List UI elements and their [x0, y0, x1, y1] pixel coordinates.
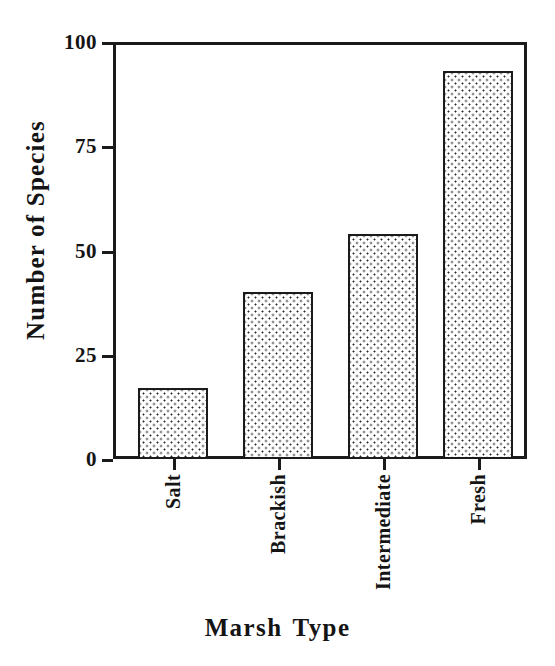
y-tick-mark-50 — [102, 251, 113, 254]
bar-chart-figure: 100 75 50 25 0 Number of Species Salt Br… — [0, 0, 555, 666]
x-axis-title: MarshType — [0, 614, 555, 642]
y-tick-label-75: 75 — [75, 136, 97, 157]
bar-intermediate — [348, 234, 418, 459]
y-axis-title: Number of Species — [14, 0, 58, 459]
y-tick-label-25: 25 — [75, 345, 97, 366]
x-axis-title-word-2: Type — [292, 614, 350, 641]
y-tick-mark-100 — [102, 42, 113, 45]
y-tick-mark-75 — [102, 146, 113, 149]
x-tick-label-brackish: Brackish — [268, 474, 292, 494]
bar-fresh — [443, 71, 513, 459]
x-tick-label-intermediate-text: Intermediate — [373, 474, 393, 590]
x-tick-mark-brackish — [278, 459, 281, 470]
x-tick-label-salt-text: Salt — [163, 474, 183, 509]
x-axis-title-word-1: Marsh — [205, 614, 283, 641]
y-tick-label-50: 50 — [75, 241, 97, 262]
x-tick-label-salt: Salt — [163, 474, 187, 494]
y-tick-mark-0 — [102, 459, 113, 462]
x-tick-mark-fresh — [478, 459, 481, 470]
x-tick-label-fresh-text: Fresh — [468, 474, 488, 525]
y-tick-label-0: 0 — [86, 449, 97, 470]
y-tick-label-100: 100 — [64, 32, 97, 53]
x-tick-label-intermediate: Intermediate — [373, 474, 397, 494]
x-tick-label-fresh: Fresh — [468, 474, 492, 494]
x-tick-label-brackish-text: Brackish — [268, 474, 288, 554]
bars-layer — [113, 42, 527, 459]
x-tick-mark-intermediate — [383, 459, 386, 470]
bar-brackish — [243, 292, 313, 459]
y-tick-mark-25 — [102, 355, 113, 358]
bar-salt — [138, 388, 208, 459]
y-axis-title-text: Number of Species — [22, 120, 50, 340]
x-tick-mark-salt — [173, 459, 176, 470]
